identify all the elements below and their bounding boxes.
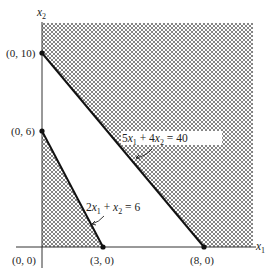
x-axis-label: x1 <box>255 240 265 255</box>
label-3-0: (3, 0) <box>90 254 114 267</box>
point-0-6 <box>39 128 44 133</box>
label-origin: (0, 0) <box>12 254 36 267</box>
point-8-0 <box>201 244 206 249</box>
label-0-6: (0, 6) <box>11 125 35 138</box>
label-0-10: (0, 10) <box>6 47 36 60</box>
lp-diagram: x2 x1 (0, 10) (0, 6) (0, 0) (3, 0) (8, 0… <box>0 0 273 277</box>
equation-label-c1: 2x1 + x2 = 6 <box>86 201 140 216</box>
point-3-0 <box>100 244 105 249</box>
point-0-10 <box>39 50 44 55</box>
y-axis-label: x2 <box>36 6 46 21</box>
label-8-0: (8, 0) <box>190 254 214 267</box>
